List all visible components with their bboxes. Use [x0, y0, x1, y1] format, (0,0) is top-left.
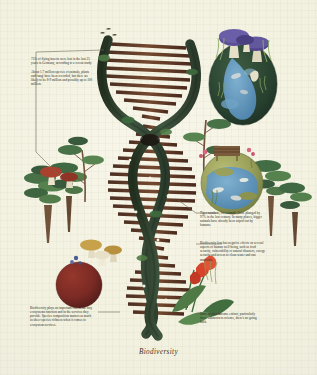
- note-ecosystem-services: Biodiversity plays an important role in …: [30, 306, 94, 327]
- note-line: Biodiversity plays an important role in …: [30, 306, 94, 327]
- note-tiger-numbers: Tiger numbers, for example, have plunged…: [200, 211, 264, 228]
- conifer-tree-far-right: [279, 183, 312, 246]
- page-title: Biodiversity: [0, 348, 317, 356]
- note-flying-insects: 75% of flying insects were lost in the l…: [31, 57, 93, 87]
- note-extinction: Once species become extinct, particularl…: [200, 312, 262, 324]
- note-line: 75% of flying insects were lost in the l…: [31, 57, 93, 65]
- note-line: Once species become extinct, particularl…: [200, 312, 262, 324]
- note-line: About 1.7 million species of animals, pl…: [31, 70, 93, 87]
- conifer-tree-left: [24, 166, 66, 244]
- note-line: Tiger numbers, for example, have plunged…: [200, 211, 264, 228]
- globe-circle-inset: [201, 152, 263, 214]
- helix-hollow: [140, 134, 160, 146]
- note-line: Biodiversity loss has negative effects o…: [200, 241, 266, 262]
- small-birds: [100, 28, 117, 36]
- mushroom-white: [94, 251, 110, 266]
- maroon-sphere: [56, 262, 102, 308]
- note-human-wellbeing: Biodiversity loss has negative effects o…: [200, 241, 266, 262]
- dark-green-circular-vignette: [209, 43, 277, 125]
- biodiversity-poster: 75% of flying insects were lost in the l…: [0, 0, 317, 375]
- dna-double-helix: [98, 40, 198, 336]
